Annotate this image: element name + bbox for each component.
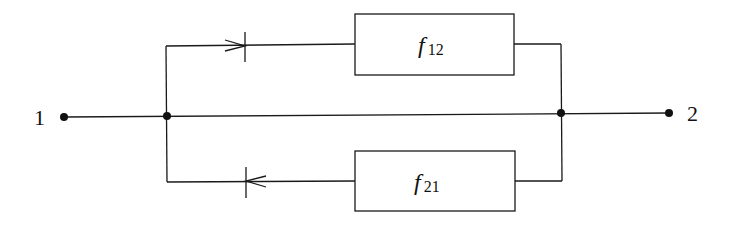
node-1-dot bbox=[60, 113, 68, 121]
node-1-label: 1 bbox=[34, 105, 45, 130]
node-2-label: 2 bbox=[687, 101, 698, 126]
node-2-dot bbox=[665, 109, 673, 117]
parallel-block-diagram: f12 f21 1 2 bbox=[0, 0, 733, 235]
right-junction-dot bbox=[557, 109, 565, 117]
arrow-left-icon bbox=[246, 167, 266, 198]
main-wire bbox=[64, 113, 669, 117]
block-f12: f12 bbox=[355, 14, 514, 75]
top-branch-wire-left bbox=[166, 44, 355, 46]
arrow-right-icon bbox=[225, 32, 245, 62]
block-f21: f21 bbox=[355, 151, 515, 211]
left-junction-dot bbox=[163, 112, 171, 120]
bottom-branch-wire-left bbox=[167, 181, 355, 182]
